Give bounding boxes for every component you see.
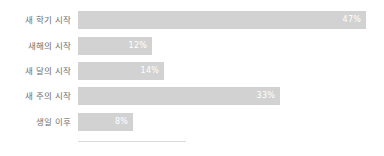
bar-track: 14% xyxy=(78,62,164,80)
bar-row: 새 주의 시작 33% xyxy=(0,87,384,105)
bar-track: 47% xyxy=(78,11,366,29)
category-label: 새 학기 시작 xyxy=(0,11,71,29)
bar: 33% xyxy=(78,87,280,105)
bar-row: 생일 이후 8% xyxy=(0,113,384,131)
category-label: 새 달의 시작 xyxy=(0,62,71,80)
bar: 14% xyxy=(78,62,164,80)
bar-value-label: 47% xyxy=(343,11,366,29)
bar: 8% xyxy=(78,113,133,131)
bar-track: 33% xyxy=(78,87,280,105)
bar-value-label: 33% xyxy=(257,87,280,105)
bar-row: 새 학기 시작 47% xyxy=(0,11,384,29)
plot-area: 새 학기 시작 47% 새해의 시작 12% 새 달의 시작 14% xyxy=(0,0,384,156)
category-label: 새 주의 시작 xyxy=(0,87,71,105)
bar-row: 새 달의 시작 14% xyxy=(0,62,384,80)
bar-value-label: 14% xyxy=(141,62,164,80)
bar-track: 12% xyxy=(78,37,152,55)
bar: 47% xyxy=(78,11,366,29)
bar-track: 8% xyxy=(78,113,133,131)
category-label: 생일 이후 xyxy=(0,113,71,131)
axis-baseline xyxy=(78,141,186,142)
bar-chart: 새 학기 시작 47% 새해의 시작 12% 새 달의 시작 14% xyxy=(0,0,384,156)
category-label: 새해의 시작 xyxy=(0,37,71,55)
bar-value-label: 8% xyxy=(115,113,133,131)
bar-value-label: 12% xyxy=(129,37,152,55)
bar-row: 새해의 시작 12% xyxy=(0,37,384,55)
bar: 12% xyxy=(78,37,152,55)
